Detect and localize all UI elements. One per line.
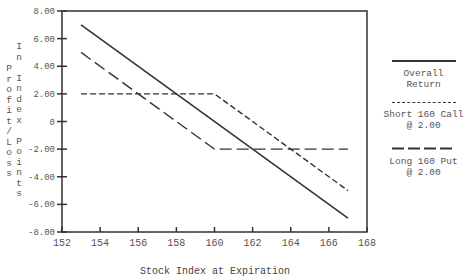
axis-label-char: i [6, 106, 12, 117]
axis-label-char: I [16, 42, 22, 53]
chart-plot: 8.006.004.002.000-2.00-4.00-6.00-8.00 15… [0, 0, 471, 280]
legend-label-line1: Overall [376, 68, 471, 79]
y-tick-label: -6.00 [28, 200, 55, 210]
legend-label-line2: @ 2.00 [376, 120, 471, 131]
y-tick-label: -2.00 [28, 145, 55, 155]
axis-label-char: n [16, 168, 22, 179]
series-line [81, 25, 348, 218]
axis-label-char: / [6, 127, 12, 138]
axis-label-char [16, 63, 22, 74]
legend-label-line1: Short 160 Call [376, 109, 471, 120]
x-tick-label: 166 [320, 238, 338, 249]
y-axis-ticks: 8.006.004.002.000-2.00-4.00-6.00-8.00 [28, 7, 67, 238]
legend-item-long-put: Long 160 Put @ 2.00 [376, 147, 471, 178]
x-tick-label: 162 [244, 238, 262, 249]
x-tick-label: 158 [167, 238, 185, 249]
x-tick-label: 154 [91, 238, 109, 249]
legend-label-line2: @ 2.00 [376, 167, 471, 178]
solid-line-swatch-icon [392, 60, 456, 62]
x-tick-label: 168 [358, 238, 376, 249]
y-tick-label: 8.00 [33, 7, 55, 17]
legend-item-short-call: Short 160 Call @ 2.00 [376, 102, 471, 131]
axis-label-char: P [6, 64, 12, 75]
axis-label-char: o [6, 85, 12, 96]
axis-label-char: s [16, 189, 22, 200]
y-tick-label: 0 [50, 118, 55, 128]
axis-label-char [16, 126, 22, 137]
long-dash-swatch-icon [392, 147, 456, 150]
legend-item-overall-return: Overall Return [376, 60, 471, 90]
series-line [81, 94, 348, 191]
short-dash-swatch-icon [392, 102, 456, 103]
x-tick-label: 164 [282, 238, 300, 249]
axis-label-char: e [16, 105, 22, 116]
y-axis-label-profit-loss: Profit/Loss [4, 64, 14, 180]
axis-label-char: o [6, 148, 12, 159]
y-tick-label: -8.00 [28, 228, 55, 238]
y-tick-label: 4.00 [33, 62, 55, 72]
series-lines [81, 25, 348, 218]
y-tick-label: -4.00 [28, 173, 55, 183]
x-tick-label: 160 [205, 238, 223, 249]
x-tick-label: 156 [129, 238, 147, 249]
x-axis-label: Stock Index at Expiration [0, 266, 430, 277]
series-line [81, 52, 348, 149]
legend-label-line1: Long 160 Put [376, 156, 471, 167]
y-axis-label-index-points: In Index Points [14, 42, 24, 200]
axis-label-char: s [6, 169, 12, 180]
y-tick-label: 6.00 [33, 35, 55, 45]
x-axis-ticks: 152154156158160162164166168 [53, 227, 376, 249]
y-tick-label: 2.00 [33, 90, 55, 100]
axis-label-char: o [16, 147, 22, 158]
axis-label-char: n [16, 84, 22, 95]
legend-label-line2: Return [376, 79, 471, 90]
x-tick-label: 152 [53, 238, 71, 249]
